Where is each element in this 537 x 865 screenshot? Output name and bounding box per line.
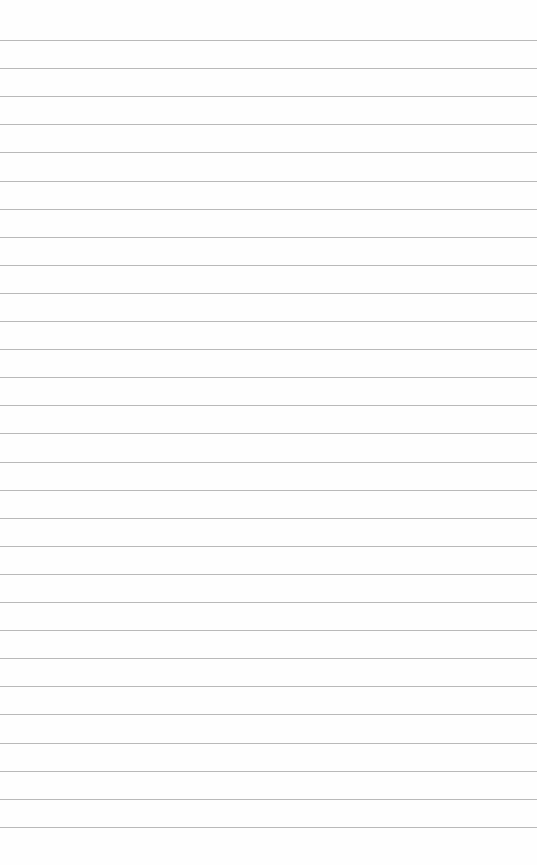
ruled-line: [0, 490, 537, 491]
ruled-line: [0, 743, 537, 744]
ruled-line: [0, 321, 537, 322]
ruled-line: [0, 602, 537, 603]
lined-paper-sheet: [0, 0, 537, 865]
ruled-line: [0, 462, 537, 463]
ruled-line: [0, 827, 537, 828]
ruled-line: [0, 771, 537, 772]
ruled-line: [0, 405, 537, 406]
ruled-line: [0, 630, 537, 631]
ruled-line: [0, 377, 537, 378]
ruled-line: [0, 96, 537, 97]
ruled-line: [0, 658, 537, 659]
ruled-line: [0, 349, 537, 350]
ruled-line: [0, 293, 537, 294]
ruled-line: [0, 124, 537, 125]
ruled-line: [0, 265, 537, 266]
ruled-line: [0, 209, 537, 210]
ruled-line: [0, 152, 537, 153]
ruled-line: [0, 68, 537, 69]
ruled-line: [0, 518, 537, 519]
ruled-line: [0, 40, 537, 41]
ruled-line: [0, 181, 537, 182]
ruled-line: [0, 574, 537, 575]
ruled-line: [0, 714, 537, 715]
ruled-line: [0, 546, 537, 547]
ruled-line: [0, 433, 537, 434]
ruled-line: [0, 799, 537, 800]
ruled-line: [0, 237, 537, 238]
ruled-line: [0, 686, 537, 687]
